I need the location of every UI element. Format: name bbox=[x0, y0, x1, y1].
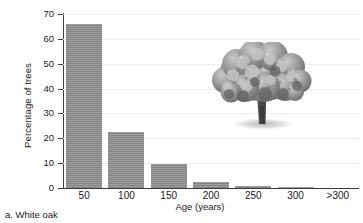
x-tick-label: 300 bbox=[273, 190, 319, 202]
plot-area bbox=[63, 14, 359, 188]
figure-caption: a. White oak bbox=[5, 209, 58, 220]
gridline bbox=[63, 39, 359, 40]
gridline bbox=[63, 163, 359, 164]
x-tick-label: 50 bbox=[61, 190, 107, 202]
y-tick-label: 30 bbox=[24, 108, 54, 118]
x-axis-line bbox=[63, 188, 359, 189]
y-tick-label: 0 bbox=[24, 183, 54, 193]
bar bbox=[151, 164, 187, 188]
y-tick-label: 10 bbox=[24, 158, 54, 168]
y-tick-label: 20 bbox=[24, 133, 54, 143]
gridline bbox=[63, 138, 359, 139]
bar bbox=[66, 24, 102, 188]
bar bbox=[278, 187, 314, 188]
bar bbox=[193, 182, 229, 188]
y-tick-label: 40 bbox=[24, 84, 54, 94]
y-tick-label: 50 bbox=[24, 59, 54, 69]
gridline bbox=[63, 14, 359, 15]
white-oak-tree-illustration bbox=[207, 42, 315, 132]
y-tick-label: 70 bbox=[24, 9, 54, 19]
bar bbox=[235, 186, 271, 188]
figure-white-oak-age-distribution: Percentage of trees 010203040506070 bbox=[0, 0, 363, 223]
bar bbox=[108, 132, 144, 188]
y-tick-label: 60 bbox=[24, 34, 54, 44]
x-axis-title: Age (years) bbox=[140, 201, 260, 212]
x-tick-label: >300 bbox=[315, 190, 361, 202]
